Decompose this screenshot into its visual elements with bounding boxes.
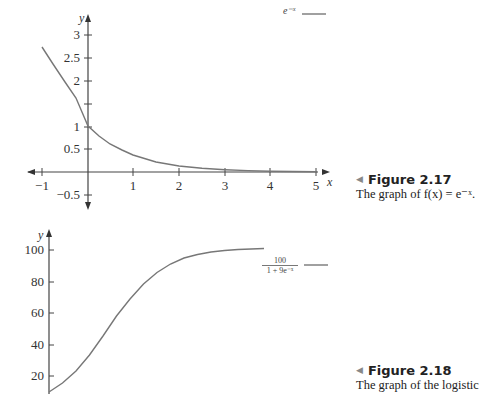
x-tick-label: −1 bbox=[35, 178, 49, 193]
y-tick-label: −0.5 bbox=[56, 187, 80, 202]
figure-2-18-chart: 100 80 60 40 20 y bbox=[25, 228, 329, 394]
y-axis-label: y bbox=[78, 11, 85, 25]
y-tick-label: 100 bbox=[25, 242, 45, 257]
figure-2-17-caption: ◀Figure 2.17 The graph of f(x) = e⁻ˣ. bbox=[356, 172, 494, 202]
figure-2-18-caption: ◀Figure 2.18 The graph of the logistic bbox=[356, 363, 494, 393]
x-tick-label: 1 bbox=[130, 178, 137, 193]
figure-2-17-chart: −1 1 2 3 4 5 x 3 2.5 2 1 0.5 −0.5 y bbox=[27, 11, 333, 210]
legend-label: e⁻ˣ bbox=[283, 5, 295, 16]
y-tick-label: 20 bbox=[31, 368, 44, 383]
y-tick-label: 40 bbox=[31, 337, 44, 352]
y-tick-label: 80 bbox=[31, 274, 44, 289]
y-axis-label: y bbox=[37, 228, 44, 242]
y-tick-label: 3 bbox=[74, 27, 81, 42]
y-tick-label: 0.5 bbox=[64, 141, 80, 156]
y-tick-label: 60 bbox=[31, 305, 44, 320]
x-tick-label: 5 bbox=[313, 178, 320, 193]
x-tick-label: 3 bbox=[222, 178, 229, 193]
y-tick-label: 2 bbox=[74, 73, 81, 88]
triangle-left-icon: ◀ bbox=[356, 363, 363, 378]
caption-text: The graph of the logistic bbox=[356, 378, 494, 393]
y-axis-up-arrow-icon bbox=[46, 229, 52, 237]
x-tick-label: 2 bbox=[176, 178, 183, 193]
caption-title: Figure 2.18 bbox=[368, 363, 452, 378]
y-axis-up-arrow-icon bbox=[85, 14, 91, 22]
y-axis-down-arrow-icon bbox=[85, 202, 91, 210]
legend-denominator: 1 + 9e⁻ˣ bbox=[262, 266, 298, 275]
legend-fraction: 100 1 + 9e⁻ˣ bbox=[262, 256, 298, 275]
legend-numerator: 100 bbox=[262, 256, 298, 266]
exp-decay-curve bbox=[42, 47, 316, 172]
x-axis-label: x bbox=[326, 175, 333, 189]
y-tick-label: 2.5 bbox=[64, 50, 80, 65]
caption-text: The graph of f(x) = e⁻ˣ. bbox=[356, 187, 494, 202]
x-tick-label: 4 bbox=[267, 178, 274, 193]
y-ticks bbox=[49, 250, 54, 376]
caption-title: Figure 2.17 bbox=[368, 172, 452, 187]
x-axis-left-arrow-icon bbox=[27, 169, 35, 175]
logistic-curve bbox=[49, 249, 264, 393]
triangle-left-icon: ◀ bbox=[356, 172, 363, 187]
y-tick-label: 1 bbox=[74, 119, 81, 134]
